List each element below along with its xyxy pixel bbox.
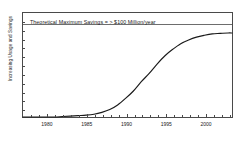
x-axis-tick-minor [135, 115, 136, 117]
x-axis-tick-minor [182, 115, 183, 117]
x-axis-tick-minor [71, 115, 72, 117]
x-axis-tick-label: 1980 [41, 121, 52, 127]
x-axis-tick-major [87, 114, 88, 117]
x-axis-tick-minor [63, 115, 64, 117]
x-axis-tick-minor [55, 115, 56, 117]
x-axis-tick-minor [95, 115, 96, 117]
plot-area: Theoretical Maximum Savings = > $100 Mil… [22, 12, 233, 118]
x-axis-tick-minor [142, 115, 143, 117]
x-axis-tick-minor [79, 115, 80, 117]
x-axis-tick-minor [230, 115, 231, 117]
x-axis-tick-label: 1985 [81, 121, 92, 127]
x-axis-tick-minor [150, 115, 151, 117]
y-axis-title: Increasing Usage and Savings [8, 0, 13, 105]
y-axis-tick [23, 48, 25, 49]
y-axis-tick [23, 93, 25, 94]
x-axis-tick-minor [111, 115, 112, 117]
y-axis-tick [23, 40, 25, 41]
y-axis-tick [23, 75, 25, 76]
x-axis-tick-major [206, 114, 207, 117]
x-axis-tick-minor [214, 115, 215, 117]
x-axis-tick-minor [31, 115, 32, 117]
y-axis-tick [23, 101, 25, 102]
y-axis-tick [23, 66, 25, 67]
y-axis-tick [23, 110, 25, 111]
x-axis-tick-minor [222, 115, 223, 117]
chart-figure: Increasing Usage and Savings Theoretical… [0, 0, 247, 141]
x-axis-tick-label: 1995 [161, 121, 172, 127]
x-axis-tick-label: 2000 [201, 121, 212, 127]
x-axis-tick-minor [198, 115, 199, 117]
y-axis-tick [23, 31, 25, 32]
y-axis-tick [23, 22, 25, 23]
x-axis-tick-minor [174, 115, 175, 117]
x-axis-tick-major [47, 114, 48, 117]
x-axis-tick-minor [158, 115, 159, 117]
x-axis-tick-label: 1990 [121, 121, 132, 127]
x-axis-tick-minor [103, 115, 104, 117]
x-axis-tick-minor [190, 115, 191, 117]
x-axis-tick-major [166, 114, 167, 117]
x-axis-tick-minor [39, 115, 40, 117]
y-axis-tick [23, 57, 25, 58]
usage-savings-curve [23, 13, 232, 117]
y-axis-tick [23, 84, 25, 85]
x-axis-tick-minor [119, 115, 120, 117]
x-axis-tick-major [127, 114, 128, 117]
